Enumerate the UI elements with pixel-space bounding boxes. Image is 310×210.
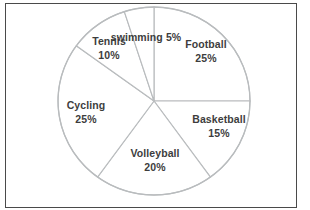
slice-percent-tennis: 10% [92,49,126,63]
slice-name-basketball: Basketball [192,113,246,127]
slice-percent-basketball: 15% [192,127,246,141]
slice-name-volleyball: Volleyball [130,147,179,161]
slice-percent-football: 25% [185,52,227,66]
slice-label-volleyball: Volleyball20% [130,147,179,175]
pie-chart: Football25%Basketball15%Volleyball20%Cyc… [0,0,310,210]
slice-percent-cycling: 25% [67,113,106,127]
slice-label-swimming: swimming 5% [111,31,182,45]
slice-name-cycling: Cycling [67,99,106,113]
pie-chart-page: Football25%Basketball15%Volleyball20%Cyc… [0,0,310,210]
slice-label-cycling: Cycling25% [67,99,106,127]
slice-name-swimming: swimming [111,31,163,43]
slice-percent-swimming: 5% [166,31,181,43]
slice-name-football: Football [185,38,227,52]
slice-percent-volleyball: 20% [130,161,179,175]
slice-label-football: Football25% [185,38,227,66]
slice-label-basketball: Basketball15% [192,113,246,141]
